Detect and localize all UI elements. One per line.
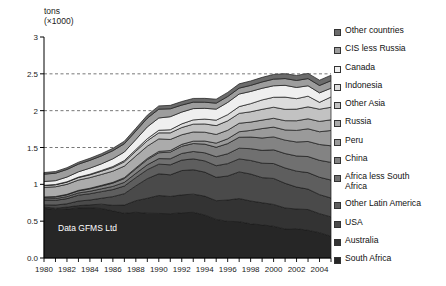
legend-swatch-icon (334, 66, 341, 73)
chart-legend: Other countriesCIS less RussiaCanadaIndo… (334, 26, 446, 273)
x-tick-label: 2000 (265, 265, 283, 274)
legend-label: China (345, 154, 367, 164)
legend-swatch-icon (334, 84, 341, 91)
legend-item[interactable]: Australia (334, 236, 446, 253)
legend-swatch-icon (334, 202, 341, 209)
x-tick-label: 1986 (104, 265, 122, 274)
x-tick-label: 1996 (219, 265, 237, 274)
legend-swatch-icon (334, 175, 341, 182)
legend-item[interactable]: Other Asia (334, 99, 446, 116)
x-tick-label: 1980 (35, 265, 53, 274)
legend-swatch-icon (334, 221, 341, 228)
legend-label: Other Latin America (345, 199, 421, 209)
y-tick-label: 2.5 (27, 70, 39, 79)
x-tick-label: 2004 (311, 265, 329, 274)
legend-item[interactable]: Africa less South Africa (334, 172, 446, 198)
y-tick-label: 1.5 (27, 144, 39, 153)
legend-label: South Africa (345, 254, 391, 264)
legend-swatch-icon (334, 120, 341, 127)
legend-item[interactable]: Canada (334, 63, 446, 80)
legend-label: Africa less South Africa (345, 172, 409, 191)
y-tick-label: 0.5 (27, 217, 39, 226)
y-tick-label: 3 (34, 33, 39, 42)
x-tick-label: 1992 (173, 265, 191, 274)
legend-swatch-icon (334, 29, 341, 36)
legend-label: USA (345, 218, 363, 228)
legend-swatch-icon (334, 257, 341, 264)
x-tick-label: 1984 (81, 265, 99, 274)
legend-label: Other Asia (345, 99, 385, 109)
legend-swatch-icon (334, 157, 341, 164)
y-tick-label: 2 (34, 107, 39, 116)
x-tick-label: 1998 (242, 265, 260, 274)
legend-item[interactable]: USA (334, 218, 446, 235)
legend-label: Other countries (345, 26, 404, 36)
source-annotation: Data GFMS Ltd (58, 223, 117, 233)
legend-label: CIS less Russia (345, 44, 406, 54)
legend-item[interactable]: CIS less Russia (334, 44, 446, 61)
y-tick-label: 1 (34, 180, 39, 189)
legend-label: Canada (345, 63, 375, 73)
legend-label: Indonesia (345, 81, 382, 91)
x-tick-label: 2002 (288, 265, 306, 274)
legend-swatch-icon (334, 102, 341, 109)
legend-label: Russia (345, 117, 371, 127)
chart-figure: tons(×1000) 0.00.511.522.531980198219841… (0, 0, 446, 286)
legend-item[interactable]: China (334, 154, 446, 171)
legend-item[interactable]: Other countries (334, 26, 446, 43)
legend-label: Peru (345, 136, 363, 146)
y-tick-label: 0.0 (27, 254, 39, 263)
x-tick-label: 1988 (127, 265, 145, 274)
legend-swatch-icon (334, 239, 341, 246)
legend-item[interactable]: South Africa (334, 254, 446, 271)
legend-item[interactable]: Other Latin America (334, 199, 446, 216)
legend-label: Australia (345, 236, 378, 246)
legend-item[interactable]: Russia (334, 117, 446, 134)
legend-item[interactable]: Indonesia (334, 81, 446, 98)
x-tick-label: 1990 (150, 265, 168, 274)
legend-swatch-icon (334, 47, 341, 54)
legend-item[interactable]: Peru (334, 136, 446, 153)
legend-swatch-icon (334, 139, 341, 146)
x-tick-label: 1982 (58, 265, 76, 274)
x-tick-label: 1994 (196, 265, 214, 274)
